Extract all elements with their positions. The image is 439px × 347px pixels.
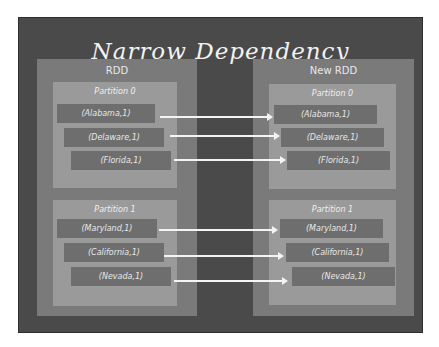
record-maryland: (Maryland,1) <box>57 219 157 238</box>
new-record-florida: (Florida,1) <box>287 151 390 170</box>
partition-label: Partition 1 <box>269 205 396 214</box>
arrow-right-icon <box>174 280 283 282</box>
record-alabama: (Alabama,1) <box>57 104 155 123</box>
rdd-label: RDD <box>37 65 197 76</box>
new-record-maryland: (Maryland,1) <box>280 219 383 238</box>
record-california: (California,1) <box>64 243 164 262</box>
arrow-right-icon <box>160 116 268 118</box>
partition-label: Partition 0 <box>269 89 396 98</box>
new-record-delaware: (Delaware,1) <box>281 128 384 147</box>
partition-label: Partition 0 <box>53 87 177 96</box>
record-delaware: (Delaware,1) <box>64 128 164 147</box>
new-record-nevada: (Nevada,1) <box>292 267 395 286</box>
arrow-right-icon <box>164 255 279 257</box>
partition-label: Partition 1 <box>53 205 177 214</box>
new-record-alabama: (Alabama,1) <box>274 105 377 124</box>
arrow-right-icon <box>159 229 273 231</box>
new-rdd-label: New RDD <box>253 65 414 76</box>
arrow-right-icon <box>170 135 275 137</box>
arrow-right-icon <box>174 159 281 161</box>
record-nevada: (Nevada,1) <box>71 267 171 286</box>
record-florida: (Florida,1) <box>71 151 171 170</box>
new-record-california: (California,1) <box>286 243 389 262</box>
